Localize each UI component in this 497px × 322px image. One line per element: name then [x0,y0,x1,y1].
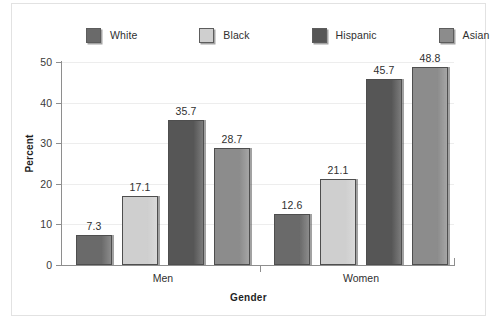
x-group-label-men: Men [103,272,223,284]
legend-label-asian: Asian [463,29,490,41]
bar-hispanic-men[interactable] [168,120,204,265]
bar-value-label: 12.6 [270,199,314,211]
legend-label-white: White [110,29,137,41]
bar-value-label: 48.8 [408,52,452,64]
bar-value-label: 17.1 [118,181,162,193]
x-axis-end-tick [454,258,455,266]
legend-swatch-black [199,28,214,43]
y-tick-mark [56,184,62,185]
chart-legend: White Black Hispanic Asian [62,24,462,46]
gridline [62,62,454,63]
plot-area [62,62,454,265]
y-tick-mark [56,265,62,266]
legend-label-black: Black [223,29,249,41]
legend-item-asian[interactable]: Asian [439,24,490,46]
bar-value-label: 45.7 [362,64,406,76]
x-axis-line [61,265,455,266]
bar-value-label: 21.1 [316,164,360,176]
y-tick-mark [56,143,62,144]
bar-white-men[interactable] [76,235,112,265]
y-tick-label: 10 [12,218,52,230]
legend-swatch-white [86,28,101,43]
legend-label-hispanic: Hispanic [336,29,377,41]
legend-swatch-asian [439,28,454,43]
legend-item-hispanic[interactable]: Hispanic [312,24,377,46]
bar-chart: White Black Hispanic Asian 01020304050 P… [0,0,497,322]
legend-swatch-hispanic [312,28,327,43]
bar-value-label: 7.3 [72,220,116,232]
y-tick-label: 40 [12,97,52,109]
bar-asian-women[interactable] [412,67,448,265]
x-axis-title: Gender [0,292,497,303]
bar-white-women[interactable] [274,214,310,265]
y-tick-mark [56,62,62,63]
legend-item-white[interactable]: White [86,24,137,46]
bar-black-women[interactable] [320,179,356,265]
bar-black-men[interactable] [122,196,158,265]
y-tick-label: 0 [12,259,52,271]
y-tick-label: 50 [12,56,52,68]
bar-asian-men[interactable] [214,148,250,265]
x-axis-group-separator-tick [260,265,261,272]
y-axis-title: Percent [24,119,35,189]
legend-item-black[interactable]: Black [199,24,249,46]
x-group-label-women: Women [301,272,421,284]
bar-hispanic-women[interactable] [366,79,402,265]
y-tick-mark [56,103,62,104]
y-tick-mark [56,224,62,225]
bar-value-label: 35.7 [164,105,208,117]
bar-value-label: 28.7 [210,133,254,145]
